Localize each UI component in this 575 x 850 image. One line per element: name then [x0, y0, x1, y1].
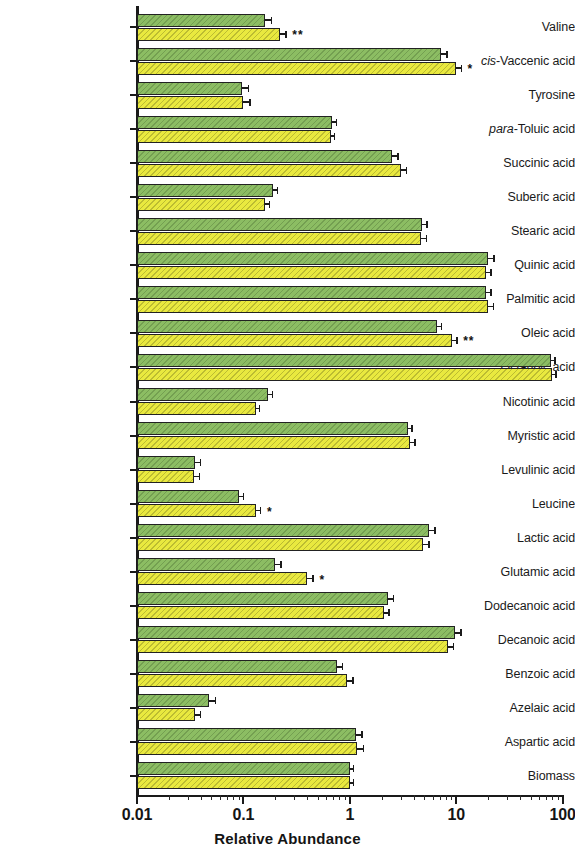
- category-label: Azelaic acid: [444, 702, 575, 715]
- category-label: Lactic acid: [444, 531, 575, 544]
- bar-series_1: [137, 422, 408, 435]
- bar-series_1: [137, 218, 422, 231]
- bar-series_1: [137, 626, 455, 639]
- bar-series_2: [137, 334, 452, 347]
- bar-series_2: [137, 164, 401, 177]
- y-tick: [130, 298, 137, 300]
- x-tick-minor: [507, 795, 508, 800]
- error-bar-cap: [353, 779, 355, 786]
- error-bar-cap: [200, 459, 202, 466]
- x-tick-minor: [451, 795, 452, 800]
- bar-series_1: [137, 660, 337, 673]
- error-bar-cap: [215, 697, 217, 704]
- error-bar-cap: [397, 153, 399, 160]
- x-tick-minor: [433, 795, 434, 800]
- x-tick-minor: [339, 795, 340, 800]
- x-tick-minor: [326, 795, 327, 800]
- bar-series_2: [137, 776, 350, 789]
- bar-series_2: [137, 640, 448, 653]
- bar-series_1: [137, 592, 388, 605]
- error-bar-cap: [490, 289, 492, 296]
- error-bar-cap: [280, 561, 282, 568]
- y-tick: [130, 503, 137, 505]
- y-tick: [130, 366, 137, 368]
- y-tick: [130, 639, 137, 641]
- bar-series_2: [137, 198, 265, 211]
- category-label: Succinic acid: [444, 157, 575, 170]
- error-bar-cap: [441, 323, 443, 330]
- x-axis-title: Relative Abundance: [0, 830, 575, 847]
- error-bar-cap: [426, 221, 428, 228]
- error-bar-cap: [414, 439, 416, 446]
- y-tick: [130, 707, 137, 709]
- bar-series_2: [137, 572, 307, 585]
- bar-series_2: [137, 606, 384, 619]
- bar-series_1: [137, 116, 332, 129]
- x-tick-minor: [233, 795, 234, 800]
- bar-series_1: [137, 286, 486, 299]
- x-tick-minor: [440, 795, 441, 800]
- y-tick: [130, 26, 137, 28]
- x-tick-minor: [307, 795, 308, 800]
- bar-series_2: [137, 266, 486, 279]
- relative-abundance-bar-chart: Valinecis-Vaccenic acidTyrosinepara-Tolu…: [0, 0, 575, 850]
- error-bar-cap: [434, 527, 436, 534]
- y-tick: [130, 230, 137, 232]
- x-tick-minor: [294, 795, 295, 800]
- x-tick-minor: [488, 795, 489, 800]
- y-tick: [130, 128, 137, 130]
- error-bar-cap: [353, 765, 355, 772]
- error-bar-cap: [393, 595, 395, 602]
- category-label: Benzoic acid: [444, 668, 575, 681]
- error-bar-cap: [388, 609, 390, 616]
- bar-series_1: [137, 762, 350, 775]
- x-tick-label: 100: [550, 806, 575, 824]
- y-tick: [130, 264, 137, 266]
- x-tick-minor: [275, 795, 276, 800]
- error-bar-cap: [260, 507, 262, 514]
- category-label: Leucine: [444, 497, 575, 510]
- x-tick-minor: [227, 795, 228, 800]
- x-tick-major: [455, 795, 457, 804]
- bar-series_2: [137, 470, 194, 483]
- error-bar-cap: [493, 255, 495, 262]
- error-bar-cap: [453, 643, 455, 650]
- x-tick-minor: [211, 795, 212, 800]
- x-tick-minor: [558, 795, 559, 800]
- x-tick-minor: [188, 795, 189, 800]
- significance-marker: *: [468, 63, 474, 75]
- x-tick-minor: [220, 795, 221, 800]
- x-tick-minor: [201, 795, 202, 800]
- error-bar-cap: [461, 65, 463, 72]
- error-bar-cap: [456, 337, 458, 344]
- x-tick-major: [562, 795, 564, 804]
- bar-series_1: [137, 354, 551, 367]
- bar-series_2: [137, 674, 347, 687]
- error-bar-cap: [269, 201, 271, 208]
- y-tick: [130, 60, 137, 62]
- error-bar-cap: [411, 425, 413, 432]
- bar-series_2: [137, 368, 552, 381]
- category-label: Suberic acid: [444, 191, 575, 204]
- x-tick-label: 0.01: [122, 806, 152, 824]
- error-bar-cap: [428, 541, 430, 548]
- bar-series_2: [137, 300, 488, 313]
- bar-series_1: [137, 82, 242, 95]
- error-bar-cap: [363, 745, 365, 752]
- y-tick: [130, 469, 137, 471]
- y-tick: [130, 775, 137, 777]
- x-tick-major: [242, 795, 244, 804]
- y-tick: [130, 537, 137, 539]
- error-bar-cap: [259, 405, 261, 412]
- error-bar-cap: [312, 575, 314, 582]
- bar-series_1: [137, 388, 268, 401]
- error-bar-cap: [334, 133, 336, 140]
- bar-series_1: [137, 150, 392, 163]
- y-tick: [130, 332, 137, 334]
- x-tick-major: [136, 795, 138, 804]
- bar-series_1: [137, 320, 437, 333]
- bar-series_2: [137, 742, 357, 755]
- bar-series_1: [137, 694, 209, 707]
- category-label: Glutamic acid: [444, 565, 575, 578]
- x-tick-minor: [546, 795, 547, 800]
